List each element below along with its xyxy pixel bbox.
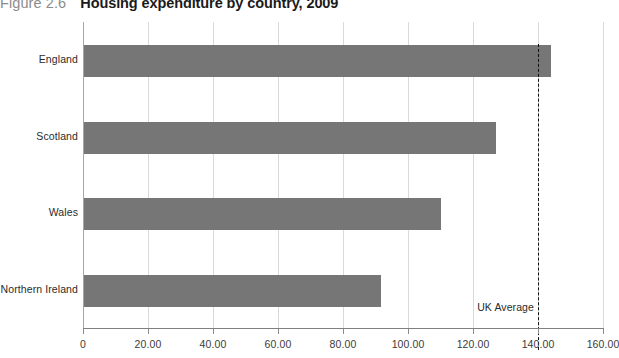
bar-scotland (83, 122, 496, 154)
uk-average-reference-line (538, 44, 539, 350)
bar-england (83, 45, 551, 77)
x-tick-mark-100.00 (408, 329, 409, 334)
bar-wales (83, 198, 441, 230)
x-tick-label-140.00: 140.00 (522, 338, 555, 350)
x-tick-label-120.00: 120.00 (457, 338, 490, 350)
y-axis-label-scotland: Scotland (0, 130, 78, 142)
y-axis-label-england: England (0, 53, 78, 65)
x-tick-mark-60.00 (278, 329, 279, 334)
uk-average-label: UK Average (470, 301, 534, 313)
x-tick-mark-20.00 (148, 329, 149, 334)
x-tick-mark-140.00 (538, 329, 539, 334)
plot-area (83, 22, 603, 328)
x-tick-label-80.00: 80.00 (330, 338, 357, 350)
x-tick-label-20.00: 20.00 (135, 338, 162, 350)
x-tick-mark-160.00 (603, 329, 604, 334)
x-tick-label-60.00: 60.00 (265, 338, 292, 350)
x-tick-mark-40.00 (213, 329, 214, 334)
y-axis-line (83, 22, 84, 329)
x-tick-label-160.00: 160.00 (587, 338, 619, 350)
x-tick-label-40.00: 40.00 (200, 338, 227, 350)
x-tick-mark-0 (83, 329, 84, 334)
gridline-160.00 (603, 22, 604, 328)
x-tick-mark-80.00 (343, 329, 344, 334)
bar-northern-ireland (83, 275, 381, 307)
x-tick-label-0: 0 (80, 338, 86, 350)
x-tick-label-100.00: 100.00 (392, 338, 425, 350)
x-tick-mark-120.00 (473, 329, 474, 334)
y-axis-label-wales: Wales (0, 206, 78, 218)
y-axis-label-northern-ireland: Northern Ireland (0, 283, 78, 295)
